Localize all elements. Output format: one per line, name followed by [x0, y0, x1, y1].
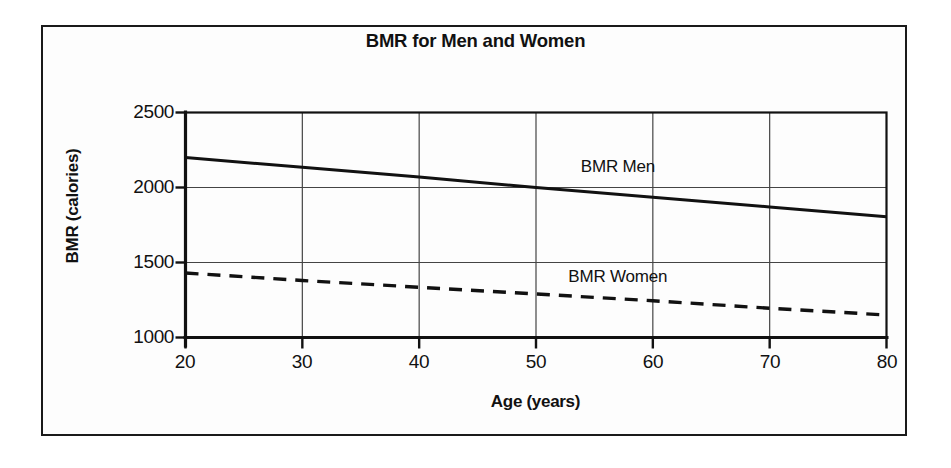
series-label-bmr-women: BMR Women — [568, 267, 667, 287]
plot-area — [0, 0, 951, 468]
series-label-bmr-men: BMR Men — [581, 157, 655, 177]
chart-figure: BMR for Men and Women BMR (calories) Age… — [0, 0, 951, 468]
